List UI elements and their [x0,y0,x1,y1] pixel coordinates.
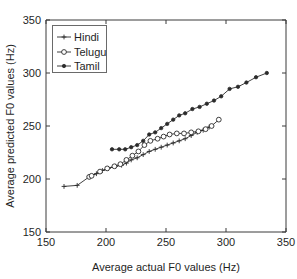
tamil-filled-marker [110,148,113,151]
legend-tamil-filled-marker [62,64,65,67]
telugu-circle-marker [105,166,110,171]
y-tick-label: 150 [23,226,41,238]
y-tick-label: 200 [23,173,41,185]
y-axis-title: Average predicted F0 values (Hz) [4,44,16,208]
telugu-circle-marker [155,136,160,141]
telugu-circle-marker [89,173,94,178]
figure-container: 150200250300350 150200250300350 Average … [0,0,297,279]
y-tick-label: 250 [23,120,41,132]
telugu-circle-marker [161,134,166,139]
x-tick-label: 250 [157,236,175,248]
legend: HindiTeluguTamil [53,26,107,73]
tamil-filled-marker [265,71,268,74]
telugu-circle-marker [118,162,123,167]
telugu-circle-marker [174,131,179,136]
tamil-filled-marker [191,107,194,110]
telugu-circle-marker [148,138,153,143]
tamil-filled-marker [148,133,151,136]
legend-items: HindiTeluguTamil [57,31,106,72]
tamil-filled-marker [245,81,248,84]
telugu-circle-marker [98,169,103,174]
y-tick-label: 300 [23,67,41,79]
telugu-circle-marker [189,130,194,135]
tamil-filled-marker [198,105,201,108]
tamil-filled-marker [130,146,133,149]
telugu-circle-marker [112,164,117,169]
x-axis-title: Average actual F0 values (Hz) [92,261,240,273]
tamil-filled-marker [220,95,223,98]
tamil-filled-marker [184,112,187,115]
tamil-filled-marker [212,99,215,102]
tamil-filled-marker [136,143,139,146]
tamil-filled-marker [254,76,257,79]
telugu-circle-marker [130,153,135,158]
telugu-circle-marker [209,124,214,129]
tamil-filled-marker [205,102,208,105]
legend-label-hindi: Hindi [74,31,99,43]
chart-canvas: 150200250300350 150200250300350 Average … [0,0,297,279]
telugu-circle-marker [216,117,221,122]
tamil-filled-marker [166,122,169,125]
tamil-filled-marker [178,114,181,117]
x-tick-label: 300 [217,236,235,248]
tamil-filled-marker [160,126,163,129]
telugu-circle-marker [142,143,147,148]
tamil-filled-marker [142,139,145,142]
legend-label-tamil: Tamil [74,60,100,72]
telugu-circle-marker [167,132,172,137]
tamil-filled-marker [118,148,121,151]
tamil-filled-marker [124,148,127,151]
x-tick-label: 200 [97,236,115,248]
legend-label-telugu: Telugu [74,46,106,58]
y-tick-label: 350 [23,14,41,26]
telugu-circle-marker [196,129,201,134]
legend-telugu-circle-marker [62,50,67,55]
tamil-filled-marker [228,87,231,90]
tamil-filled-marker [236,85,239,88]
tamil-filled-marker [154,131,157,134]
tamil-filled-marker [172,118,175,121]
telugu-circle-marker [136,149,141,154]
telugu-circle-marker [124,158,129,163]
x-tick-label: 350 [277,236,295,248]
telugu-circle-marker [203,127,208,132]
telugu-circle-marker [182,131,187,136]
